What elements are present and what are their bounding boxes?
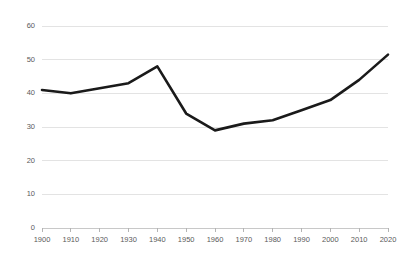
x-axis-tick-label: 1950 xyxy=(178,235,195,244)
x-axis-tick-label: 1970 xyxy=(235,235,252,244)
x-axis-tick-label: 1940 xyxy=(149,235,166,244)
y-axis-labels: 0102030405060 xyxy=(27,21,35,232)
x-axis-tick-label: 1930 xyxy=(120,235,137,244)
x-axis-tick-label: 1980 xyxy=(264,235,281,244)
x-axis-tick-label: 2000 xyxy=(322,235,339,244)
x-axis-tick-label: 1960 xyxy=(207,235,224,244)
x-axis-tick-label: 1990 xyxy=(293,235,310,244)
data-series xyxy=(42,55,388,131)
y-axis-tick-label: 40 xyxy=(27,88,35,97)
y-axis-tick-label: 60 xyxy=(27,21,35,30)
x-axis xyxy=(42,228,388,232)
y-axis-tick-label: 30 xyxy=(27,122,35,131)
x-axis-tick-label: 2010 xyxy=(351,235,368,244)
chart-canvas: 0102030405060 19001910192019301940195019… xyxy=(0,0,412,264)
line-chart: 0102030405060 19001910192019301940195019… xyxy=(0,0,412,264)
x-axis-tick-label: 1920 xyxy=(91,235,108,244)
y-axis-tick-label: 10 xyxy=(27,189,35,198)
x-axis-tick-label: 1910 xyxy=(62,235,79,244)
x-axis-tick-label: 1900 xyxy=(34,235,51,244)
gridlines xyxy=(42,26,388,194)
y-axis-tick-label: 0 xyxy=(31,223,35,232)
x-axis-labels: 1900191019201930194019501960197019801990… xyxy=(34,235,397,244)
y-axis-tick-label: 20 xyxy=(27,156,35,165)
series-line xyxy=(42,55,388,131)
x-axis-tick-label: 2020 xyxy=(380,235,397,244)
y-axis-tick-label: 50 xyxy=(27,55,35,64)
